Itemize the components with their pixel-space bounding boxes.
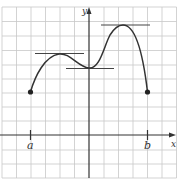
endpoint-a xyxy=(28,89,33,94)
endpoint-b xyxy=(145,89,150,94)
tick-label-a: a xyxy=(27,139,34,152)
y-axis-arrow-icon xyxy=(87,7,92,14)
x-axis-arrow-icon xyxy=(169,133,176,138)
y-axis-label: y xyxy=(81,6,88,16)
function-graph: y x a b xyxy=(0,0,178,184)
x-axis-label: x xyxy=(171,139,176,149)
tick-label-b: b xyxy=(144,139,151,152)
